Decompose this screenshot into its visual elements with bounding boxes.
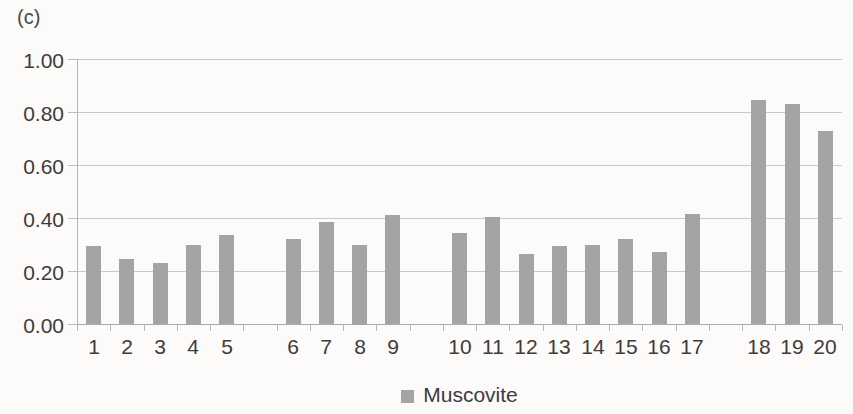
bar-8 bbox=[352, 245, 367, 325]
bar-4 bbox=[186, 245, 201, 325]
x-tick-label-9: 9 bbox=[371, 336, 415, 358]
x-axis-tick bbox=[277, 325, 278, 331]
x-axis-tick bbox=[343, 325, 344, 331]
x-tick-label-20: 20 bbox=[803, 336, 847, 358]
bar-chart-figure: (c) Muscovite 0.000.200.400.600.801.0012… bbox=[0, 0, 853, 414]
x-axis-tick bbox=[676, 325, 677, 331]
gridline-1.00 bbox=[77, 59, 842, 60]
x-axis-tick bbox=[443, 325, 444, 331]
bar-19 bbox=[785, 104, 800, 324]
y-axis-tick-label: 0.20 bbox=[4, 262, 64, 283]
x-axis-tick bbox=[709, 325, 710, 331]
x-axis-tick bbox=[144, 325, 145, 331]
y-axis-tick bbox=[68, 271, 77, 272]
y-axis-tick bbox=[68, 324, 77, 325]
x-axis-tick bbox=[310, 325, 311, 331]
legend: Muscovite bbox=[77, 383, 842, 407]
bar-12 bbox=[519, 254, 534, 324]
gridline-0.80 bbox=[77, 112, 842, 113]
bar-2 bbox=[119, 259, 134, 324]
bar-1 bbox=[86, 246, 101, 324]
bar-5 bbox=[219, 235, 234, 324]
bar-15 bbox=[618, 239, 633, 324]
x-axis-tick bbox=[809, 325, 810, 331]
bar-6 bbox=[286, 239, 301, 324]
y-axis-tick bbox=[68, 218, 77, 219]
y-axis-tick-label: 0.00 bbox=[4, 315, 64, 336]
y-axis-tick-label: 1.00 bbox=[4, 50, 64, 71]
x-axis-tick bbox=[110, 325, 111, 331]
x-axis-tick bbox=[742, 325, 743, 331]
bar-18 bbox=[751, 100, 766, 324]
x-axis-tick bbox=[376, 325, 377, 331]
panel-label: (c) bbox=[17, 6, 40, 29]
x-axis-tick bbox=[476, 325, 477, 331]
y-axis-tick-label: 0.60 bbox=[4, 156, 64, 177]
y-axis-tick bbox=[68, 165, 77, 166]
y-axis-line bbox=[77, 59, 78, 331]
x-axis-tick bbox=[609, 325, 610, 331]
y-axis-tick-label: 0.40 bbox=[4, 209, 64, 230]
x-tick-label-5: 5 bbox=[205, 336, 249, 358]
x-axis-tick bbox=[642, 325, 643, 331]
x-axis-tick bbox=[410, 325, 411, 331]
x-axis-tick bbox=[543, 325, 544, 331]
bar-16 bbox=[652, 252, 667, 324]
legend-label: Muscovite bbox=[423, 383, 518, 407]
bar-17 bbox=[685, 214, 700, 324]
x-axis-tick bbox=[177, 325, 178, 331]
y-axis-tick bbox=[68, 59, 77, 60]
x-axis-tick bbox=[509, 325, 510, 331]
x-tick-label-17: 17 bbox=[670, 336, 714, 358]
gridline-0.60 bbox=[77, 165, 842, 166]
y-axis-tick-label: 0.80 bbox=[4, 103, 64, 124]
bar-7 bbox=[319, 222, 334, 324]
bar-13 bbox=[552, 246, 567, 324]
x-axis-tick bbox=[842, 325, 843, 331]
gridline-0.40 bbox=[77, 218, 842, 219]
x-axis-tick bbox=[243, 325, 244, 331]
bar-10 bbox=[452, 233, 467, 324]
y-axis-tick bbox=[68, 112, 77, 113]
bar-20 bbox=[818, 131, 833, 324]
legend-square-marker bbox=[401, 390, 414, 403]
bar-11 bbox=[485, 217, 500, 324]
x-axis-tick bbox=[775, 325, 776, 331]
bar-9 bbox=[385, 215, 400, 324]
x-axis-tick bbox=[210, 325, 211, 331]
x-axis-tick bbox=[576, 325, 577, 331]
bar-3 bbox=[153, 263, 168, 324]
bar-14 bbox=[585, 245, 600, 325]
